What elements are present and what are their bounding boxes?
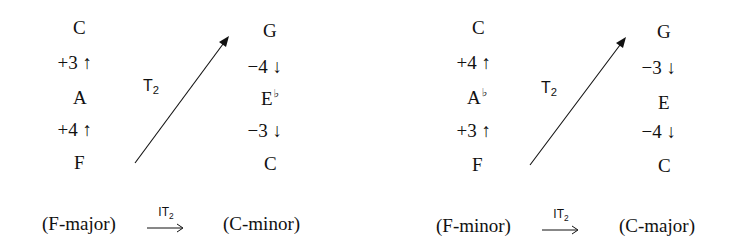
transform-arrow-icon [530, 37, 626, 165]
transform-arrow-icon [135, 36, 229, 163]
transform-arrows [0, 0, 740, 251]
